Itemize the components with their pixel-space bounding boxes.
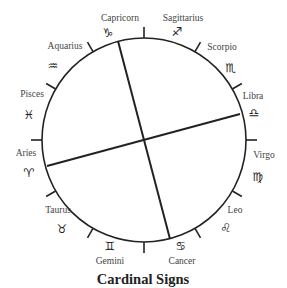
sign-label-aquarius: Aquarius <box>48 41 83 51</box>
sign-label-libra: Libra <box>243 91 264 101</box>
cancer-glyph-icon: ♋︎ <box>176 239 187 253</box>
sagittarius-glyph-icon: ♐︎ <box>172 25 183 39</box>
boundary-tick <box>195 228 201 238</box>
sign-label-taurus: Taurus <box>45 205 71 215</box>
aries-glyph-icon: ♈︎ <box>24 166 35 180</box>
sign-label-gemini: Gemini <box>96 256 125 266</box>
sign-label-cancer: Cancer <box>169 256 196 266</box>
aquarius-glyph-icon: ♒︎ <box>48 59 59 73</box>
boundary-tick <box>88 42 94 52</box>
virgo-glyph-icon: ♍︎ <box>253 170 264 184</box>
boundary-tick <box>46 191 56 197</box>
sign-label-capricorn: Capricorn <box>101 13 139 23</box>
sign-label-virgo: Virgo <box>253 150 274 160</box>
cardinal-axes <box>47 41 240 239</box>
sign-label-scorpio: Scorpio <box>207 42 237 52</box>
boundary-tick <box>88 228 94 238</box>
diagram-title: Cardinal Signs <box>97 271 189 288</box>
capricorn-glyph-icon: ♑︎ <box>103 26 114 40</box>
boundary-tick <box>232 191 242 197</box>
sign-label-pisces: Pisces <box>20 89 44 99</box>
scorpio-glyph-icon: ♏︎ <box>226 61 237 75</box>
taurus-glyph-icon: ♉︎ <box>57 222 68 236</box>
zodiac-wheel <box>0 0 287 288</box>
axis-aries-libra <box>47 114 240 166</box>
sign-label-leo: Leo <box>228 205 243 215</box>
gemini-glyph-icon: ♊︎ <box>105 239 116 253</box>
leo-glyph-icon: ♌︎ <box>221 221 232 235</box>
boundary-tick <box>232 84 242 90</box>
boundary-tick <box>46 84 56 90</box>
libra-glyph-icon: ♎︎ <box>249 106 260 120</box>
sign-label-aries: Aries <box>16 148 37 158</box>
boundary-tick <box>195 42 201 52</box>
sign-label-sagittarius: Sagittarius <box>163 13 204 23</box>
cardinal-signs-diagram: Capricorn♑︎Sagittarius♐︎Scorpio♏︎Libra♎︎… <box>0 0 287 288</box>
pisces-glyph-icon: ♓︎ <box>24 108 35 122</box>
